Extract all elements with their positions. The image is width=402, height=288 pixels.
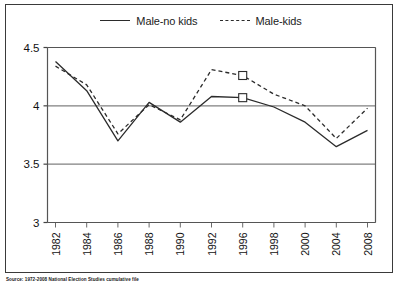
chart-legend: Male-no kids Male-kids <box>0 10 402 32</box>
legend-item-male-kids: Male-kids <box>220 15 302 27</box>
legend-label-male-no-kids: Male-no kids <box>136 15 197 27</box>
legend-line-solid-icon <box>100 16 130 26</box>
chart-frame <box>5 4 393 273</box>
chart-figure: Male-no kids Male-kids 33.544.5 19821984… <box>0 0 402 288</box>
legend-label-male-kids: Male-kids <box>256 15 302 27</box>
legend-item-male-no-kids: Male-no kids <box>100 15 197 27</box>
source-note: Source: 1972-2008 National Election Stud… <box>6 277 139 282</box>
legend-line-dashed-icon <box>220 16 250 26</box>
